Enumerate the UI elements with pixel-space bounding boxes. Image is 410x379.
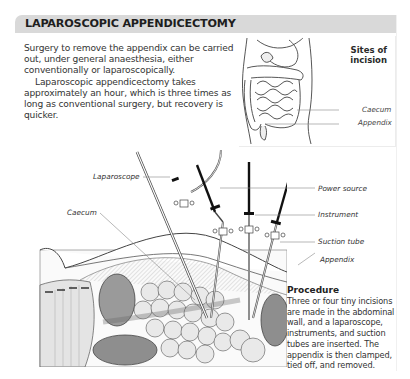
label-caecum: Caecum [67,208,97,217]
abdominal-cross-section-icon [25,150,287,367]
procedure-title: Procedure [287,285,395,296]
intro-text: Surgery to remove the appendix can be ca… [24,43,234,121]
inset-label-caecum: Caecum [362,105,391,114]
label-power-source: Power source [318,184,367,193]
document-page: LAPAROSCOPIC APPENDICECTOMY Surgery to r… [15,15,397,371]
section-title: LAPAROSCOPIC APPENDICECTOMY [25,17,236,30]
section-header: LAPAROSCOPIC APPENDICECTOMY [15,15,396,33]
label-instrument: Instrument [318,210,358,219]
label-appendix: Appendix [320,255,354,264]
label-suction-tube: Suction tube [318,237,364,246]
intro-paragraph-2: Laparoscopic appendicectomy takes approx… [24,77,234,122]
label-laparoscope: Laparoscope [93,172,140,181]
laparoscopy-diagram: Laparoscope Caecum [25,150,287,367]
procedure-text: Three or four tiny incisions are made in… [287,296,395,371]
torso-intestine-icon [239,36,349,144]
intro-paragraph-1: Surgery to remove the appendix can be ca… [24,43,234,77]
inset-title: Sites of incision [347,45,387,65]
sites-of-incision-illustration: Sites of incision Caecum Appendix [239,36,396,147]
inset-label-appendix: Appendix [358,118,392,127]
procedure-caption: Procedure Three or four tiny incisions a… [287,285,395,371]
